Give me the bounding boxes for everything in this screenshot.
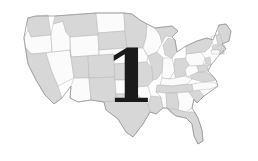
state-wyoming — [70, 35, 99, 57]
state-minnesota — [124, 13, 147, 48]
state-washington — [27, 15, 51, 37]
state-north-carolina — [192, 82, 218, 91]
state-kansas — [114, 63, 133, 80]
state-maryland — [197, 65, 208, 72]
state-colorado — [88, 54, 115, 78]
state-north-dakota — [96, 13, 125, 33]
state-indiana — [162, 58, 175, 79]
state-new-mexico — [89, 77, 116, 102]
state-alabama — [166, 93, 179, 110]
state-louisiana — [148, 96, 163, 114]
state-connecticut — [211, 50, 220, 54]
state-south-dakota — [98, 31, 127, 50]
united-states-map-svg — [0, 0, 258, 161]
state-oklahoma — [115, 80, 137, 94]
state-pennsylvania — [186, 52, 205, 66]
map-graphic: 1 — [0, 0, 258, 161]
state-florida — [167, 108, 203, 144]
state-arizona — [70, 78, 91, 102]
